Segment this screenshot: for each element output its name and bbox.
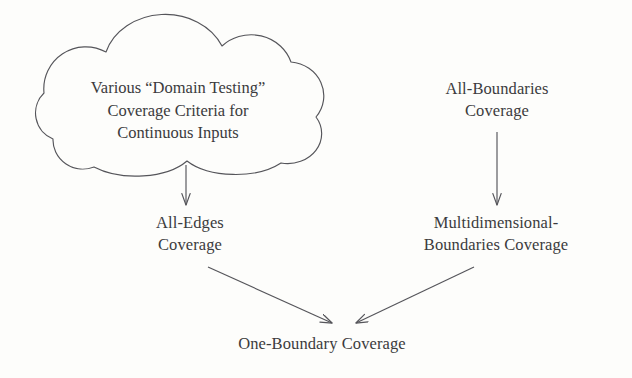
cloud-label-line-2: Coverage Criteria for xyxy=(28,100,328,123)
node-one-boundary-coverage: One-Boundary Coverage xyxy=(178,333,466,355)
all-boundaries-line-2: Coverage xyxy=(418,100,576,122)
multidimensional-line-1: Multidimensional- xyxy=(372,212,620,234)
multidimensional-line-2: Boundaries Coverage xyxy=(372,234,620,256)
one-boundary-line-1: One-Boundary Coverage xyxy=(178,333,466,355)
all-edges-line-1: All-Edges xyxy=(120,212,260,234)
cloud-label-line-3: Continuous Inputs xyxy=(28,122,328,145)
node-all-boundaries-coverage: All-Boundaries Coverage xyxy=(418,78,576,122)
node-all-edges-coverage: All-Edges Coverage xyxy=(120,212,260,256)
cloud-label: Various “Domain Testing” Coverage Criter… xyxy=(28,77,328,145)
cloud-label-line-1: Various “Domain Testing” xyxy=(28,77,328,100)
diagram-canvas: Various “Domain Testing” Coverage Criter… xyxy=(0,0,632,378)
all-edges-line-2: Coverage xyxy=(120,234,260,256)
node-multidimensional-boundaries-coverage: Multidimensional- Boundaries Coverage xyxy=(372,212,620,256)
all-boundaries-line-1: All-Boundaries xyxy=(418,78,576,100)
diagram-vector-layer xyxy=(0,0,632,378)
arrow-all-edges-to-one-boundary xyxy=(208,267,332,323)
arrow-multidimensional-to-one-boundary xyxy=(356,267,474,323)
